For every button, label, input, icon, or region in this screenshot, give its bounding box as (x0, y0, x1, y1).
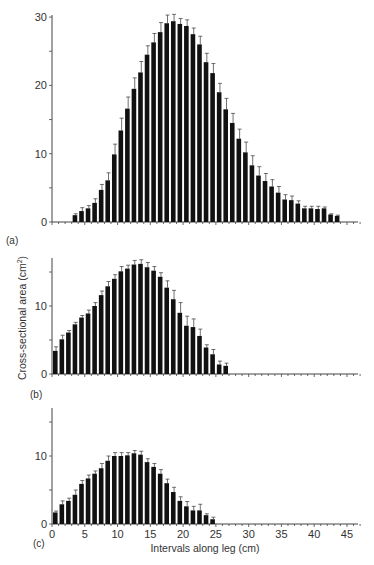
bar (132, 453, 137, 524)
bar (210, 519, 215, 524)
x-tick-label: 0 (49, 528, 55, 540)
bar (178, 313, 183, 374)
bar (66, 333, 71, 374)
x-tick-label: 30 (243, 528, 255, 540)
bar (164, 288, 169, 374)
x-tick-label: 10 (111, 528, 123, 540)
bar (269, 186, 274, 222)
bar (184, 326, 189, 374)
bar (243, 152, 248, 222)
panel-b-chart: 010 (35, 258, 360, 380)
x-axis-tick-labels: 051015202530354045 (49, 528, 353, 540)
bar (125, 109, 130, 222)
bar (171, 299, 176, 374)
y-tick-label: 10 (35, 300, 47, 312)
bar (92, 474, 97, 524)
bar (132, 89, 137, 222)
bar (315, 209, 320, 222)
y-axis-title: Cross-sectional area (cm2) (16, 256, 28, 380)
bar (178, 24, 183, 222)
bar (86, 208, 91, 222)
x-tick-label: 40 (308, 528, 320, 540)
bar (125, 455, 130, 524)
bar (237, 139, 242, 222)
bar (99, 295, 104, 374)
bar (204, 62, 209, 222)
bar (79, 318, 84, 374)
x-tick-label: 45 (341, 528, 353, 540)
bar (164, 23, 169, 222)
x-tick-label: 5 (82, 528, 88, 540)
x-tick-label: 20 (177, 528, 189, 540)
bar (158, 474, 163, 524)
bar (92, 203, 97, 222)
y-tick-label: 0 (41, 368, 47, 380)
bar (328, 214, 333, 222)
panel-b-label: (b) (30, 389, 42, 400)
x-tick-label: 35 (275, 528, 287, 540)
bar (171, 492, 176, 524)
bar (158, 32, 163, 222)
bar (145, 462, 150, 524)
bar (105, 286, 110, 374)
bar (86, 313, 91, 374)
bar (73, 215, 78, 222)
bar (204, 515, 209, 524)
bar (276, 193, 281, 222)
bar (105, 180, 110, 222)
y-tick-label: 10 (35, 450, 47, 462)
bar (197, 510, 202, 524)
panel-c-label: (c) (33, 538, 45, 549)
y-tick-label: 0 (41, 518, 47, 530)
bar (184, 506, 189, 524)
bar (73, 495, 78, 524)
bar (112, 154, 117, 222)
bar (223, 109, 228, 222)
figure: 0102030 010 010 (a) (b) (c) Cross-sectio… (0, 0, 374, 565)
bar (119, 130, 124, 222)
bar (197, 44, 202, 222)
bar (132, 265, 137, 374)
bar (197, 336, 202, 374)
y-tick-label: 30 (35, 11, 47, 23)
x-tick-label: 15 (144, 528, 156, 540)
bar (223, 366, 228, 374)
panel-a-chart: 0102030 (35, 11, 360, 228)
bar (282, 199, 287, 222)
bar (112, 456, 117, 524)
x-axis-title: Intervals along leg (cm) (150, 542, 259, 554)
bar (191, 34, 196, 222)
bar (158, 277, 163, 374)
bar (138, 455, 143, 524)
bar (335, 216, 340, 222)
bar (138, 264, 143, 374)
bar (263, 181, 268, 222)
bar (66, 501, 71, 524)
bar (138, 72, 143, 222)
y-tick-label: 20 (35, 79, 47, 91)
bar (145, 267, 150, 374)
bar (191, 510, 196, 524)
bar (53, 512, 58, 524)
panel-a-label: (a) (6, 235, 18, 246)
bar (302, 208, 307, 222)
x-tick-label: 25 (210, 528, 222, 540)
y-tick-label: 10 (35, 148, 47, 160)
bar (322, 208, 327, 222)
bar (60, 339, 65, 374)
bar (86, 478, 91, 524)
bar (79, 211, 84, 222)
bar (145, 55, 150, 222)
bar (53, 351, 58, 374)
bar (210, 354, 215, 374)
bar (151, 271, 156, 374)
bar (184, 26, 189, 222)
y-tick-label: 0 (41, 216, 47, 228)
bar (92, 306, 97, 374)
bar (171, 21, 176, 222)
bar (256, 176, 261, 222)
bar (217, 364, 222, 374)
bar (125, 269, 130, 374)
bar (230, 123, 235, 222)
bar (105, 461, 110, 524)
